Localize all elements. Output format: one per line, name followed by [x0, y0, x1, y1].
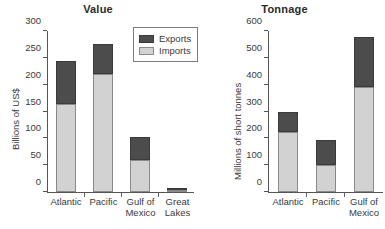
y-tick-label: 0	[36, 176, 41, 187]
y-tick-mark	[43, 84, 47, 85]
y-tick-label: 300	[25, 15, 41, 26]
bar-value-great-lakes	[167, 189, 187, 192]
bar-value-atlantic	[56, 61, 76, 192]
y-tick-mark	[264, 30, 268, 31]
y-tick-label: 300	[246, 95, 262, 106]
legend-label-imports: Imports	[159, 45, 191, 56]
bar-segment-imports	[316, 165, 336, 192]
bar-segment-imports	[167, 190, 187, 192]
y-tick-label: 100	[246, 149, 262, 160]
x-category-label: Pacific	[85, 196, 122, 207]
bar-segment-imports	[354, 87, 374, 192]
plot-area-tonnage: 0 100 200 300 400 500 600 Atlantic Pacif…	[268, 31, 383, 193]
y-tick-label: 150	[25, 95, 41, 106]
y-tick-label: 600	[246, 15, 262, 26]
y-tick-label: 100	[25, 122, 41, 133]
legend-value: Exports Imports	[133, 27, 198, 62]
bar-segment-imports	[93, 74, 113, 192]
legend-entry-imports: Imports	[139, 45, 191, 56]
chart-title-value: Value	[0, 3, 198, 15]
y-axis-label-value: Billions of US$	[10, 88, 21, 150]
y-tick-label: 500	[246, 41, 262, 52]
y-axis-line-tonnage	[268, 31, 269, 193]
legend-label-exports: Exports	[159, 33, 191, 44]
bar-segment-exports	[167, 188, 187, 190]
y-tick-mark	[43, 137, 47, 138]
y-axis-label-tonnage: Millions of short tonnes	[232, 83, 243, 180]
y-tick-mark	[43, 191, 47, 192]
chart-panel-value: Value Billions of US$ 0 50 100 150 200 2…	[0, 0, 200, 229]
y-tick-mark	[264, 84, 268, 85]
x-category-label: Gulf of Mexico	[345, 196, 383, 218]
x-category-label: Great Lakes	[159, 196, 196, 218]
y-tick-label: 400	[246, 68, 262, 79]
legend-entry-exports: Exports	[139, 33, 191, 44]
bar-tonnage-pacific	[316, 140, 336, 192]
bar-segment-exports	[130, 137, 150, 160]
y-tick-label: 200	[246, 122, 262, 133]
y-tick-mark	[264, 137, 268, 138]
bar-segment-exports	[278, 112, 298, 132]
x-category-label: Pacific	[307, 196, 345, 207]
figure-canvas: Value Billions of US$ 0 50 100 150 200 2…	[0, 0, 385, 229]
x-category-label: Atlantic	[269, 196, 307, 207]
x-category-label: Gulf of Mexico	[122, 196, 159, 218]
y-tick-mark	[43, 30, 47, 31]
x-category-label: Atlantic	[47, 196, 85, 207]
bar-tonnage-gulf-of-mexico	[354, 37, 374, 192]
bar-segment-imports	[278, 132, 298, 192]
bar-segment-exports	[56, 61, 76, 104]
bar-value-gulf-of-mexico	[130, 137, 150, 192]
y-axis-line-value	[47, 31, 48, 193]
chart-title-tonnage: Tonnage	[190, 3, 379, 15]
y-tick-mark	[264, 57, 268, 58]
y-tick-label: 250	[25, 41, 41, 52]
bar-segment-exports	[93, 44, 113, 74]
bar-tonnage-atlantic	[278, 112, 298, 192]
y-tick-label: 50	[30, 149, 41, 160]
y-tick-mark	[43, 111, 47, 112]
bar-segment-exports	[354, 37, 374, 87]
bar-value-pacific	[93, 44, 113, 192]
legend-swatch-imports-icon	[139, 47, 154, 55]
y-tick-mark	[264, 191, 268, 192]
bar-segment-imports	[56, 104, 76, 192]
x-axis-line-tonnage	[268, 192, 383, 193]
y-tick-label: 0	[257, 176, 262, 187]
chart-panel-tonnage: Tonnage Millions of short tonnes 0 100 2…	[196, 0, 385, 229]
y-tick-label: 200	[25, 68, 41, 79]
bar-segment-exports	[316, 140, 336, 165]
y-tick-mark	[43, 164, 47, 165]
legend-swatch-exports-icon	[139, 35, 154, 43]
y-tick-mark	[264, 164, 268, 165]
bar-segment-imports	[130, 160, 150, 192]
y-tick-mark	[264, 111, 268, 112]
y-tick-mark	[43, 57, 47, 58]
